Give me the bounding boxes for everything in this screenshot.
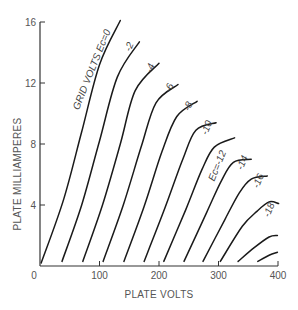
x-tick-label: 300 [210,270,227,281]
axes: 481216 0100200300400 [25,17,287,281]
x-axis-title: PLATE VOLTS [124,289,193,300]
x-ticks: 0100200300400 [31,261,287,281]
y-tick-label: 12 [25,78,37,89]
curve-label: -18 [261,201,277,219]
curve-ec-minus20 [238,236,277,262]
y-tick-label: 16 [25,17,37,28]
curve-ec-0 [41,21,120,263]
y-ticks: 481216 [25,17,45,211]
curve-label: -16 [250,172,266,190]
curve-label: -14 [234,153,250,171]
x-tick-label: 100 [91,270,108,281]
curve-label: -10 [199,118,215,136]
curve-ec-minus22 [258,252,278,261]
curves [41,21,278,263]
y-tick-label: 4 [30,200,36,211]
y-axis-title: PLATE MILLIAMPERES [12,117,23,230]
curve-ec-minus2 [62,42,139,262]
x-tick-label: 200 [151,270,168,281]
x-tick-label: 400 [270,270,287,281]
curve-ec-minus6 [103,85,178,262]
curve-ec-minus8 [124,101,197,261]
curve-label: -2 [122,40,136,53]
curve-label: GRID VOLTS Ec=0 [70,27,112,111]
curve-label: -4 [143,61,157,74]
x-tick-label: 0 [31,270,37,281]
plate-characteristics-chart: 481216 0100200300400 GRID VOLTS Ec=0-2-4… [0,0,298,310]
y-tick-label: 8 [30,139,36,150]
curve-label: -6 [162,81,176,94]
curve-ec-minus10 [144,123,216,262]
